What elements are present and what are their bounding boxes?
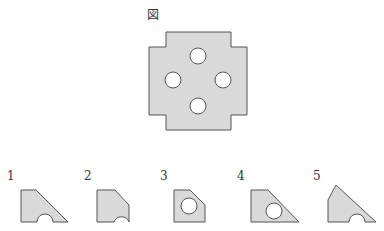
hole-left — [165, 72, 181, 88]
diagram-canvas — [0, 0, 384, 231]
hole-top — [190, 48, 206, 64]
option-2-shape[interactable] — [97, 190, 129, 222]
option-4-label: 4 — [237, 170, 245, 182]
option-3-label: 3 — [160, 170, 168, 182]
option-5-label: 5 — [313, 170, 321, 182]
option-2-label: 2 — [84, 170, 92, 182]
option-3-shape[interactable] — [174, 190, 205, 222]
hole-bottom — [190, 98, 206, 114]
option-1-shape[interactable] — [21, 190, 68, 222]
option-1-label: 1 — [7, 170, 15, 182]
option-4-shape[interactable] — [251, 190, 299, 222]
option-5-shape[interactable] — [328, 185, 376, 222]
main-figure — [149, 32, 247, 130]
hole-right — [215, 72, 231, 88]
